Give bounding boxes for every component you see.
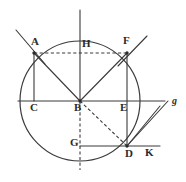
point-label-f: F — [123, 35, 130, 46]
chord-A-B — [34, 53, 80, 101]
geometry-figure: AHFCBEgGDK — [0, 0, 186, 182]
point-label-a: A — [31, 36, 39, 47]
chord-B-F — [80, 53, 127, 101]
ray-D-to-g-second — [127, 106, 160, 146]
point-label-g: G — [70, 137, 79, 148]
point-label-e: E — [120, 102, 127, 113]
point-label-g: g — [172, 96, 177, 106]
solid-lines-group — [16, 10, 168, 146]
point-label-h: H — [82, 38, 91, 49]
vertex-dot-a — [32, 51, 35, 54]
vertex-dot-f — [125, 51, 128, 54]
point-label-c: C — [30, 102, 38, 113]
point-label-b: B — [74, 102, 81, 113]
point-label-k: K — [145, 147, 154, 158]
point-label-d: D — [125, 148, 133, 159]
geometry-canvas — [0, 0, 186, 182]
